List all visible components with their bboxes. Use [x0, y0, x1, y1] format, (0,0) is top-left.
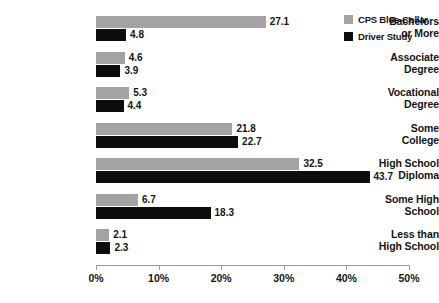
x-axis-tick — [346, 265, 347, 270]
legend-item-label: CPS Blue-Collar — [358, 14, 428, 25]
x-axis-tick-label: 0% — [76, 272, 116, 284]
bar-value-label: 27.1 — [270, 16, 289, 28]
legend-swatch-icon — [344, 32, 353, 41]
legend-item: CPS Blue-Collar — [344, 14, 428, 25]
bar — [96, 194, 138, 206]
bar-value-label: 2.3 — [114, 242, 128, 254]
bar — [96, 16, 266, 28]
legend-item-label: Driver Study — [358, 31, 412, 42]
x-axis-tick — [221, 265, 222, 270]
bar-value-label: 2.1 — [113, 229, 127, 241]
bar — [96, 171, 370, 183]
bar — [96, 87, 129, 99]
chart-legend: CPS Blue-Collar Driver Study — [344, 14, 428, 48]
x-axis-line — [96, 265, 409, 266]
bar-value-label: 4.8 — [130, 29, 144, 41]
bar-value-label: 6.7 — [142, 194, 156, 206]
legend-swatch-icon — [344, 15, 353, 24]
bar — [96, 242, 110, 254]
x-axis-tick — [284, 265, 285, 270]
bar-value-label: 21.8 — [236, 123, 255, 135]
x-axis-tick-label: 10% — [139, 272, 179, 284]
bar-value-label: 4.6 — [129, 52, 143, 64]
bar — [96, 207, 211, 219]
x-axis-tick-label: 40% — [326, 272, 366, 284]
bar — [96, 100, 124, 112]
bar — [96, 136, 238, 148]
bar-chart: Bachelorsor MoreAssociateDegreeVocationa… — [0, 0, 439, 303]
bar-value-label: 18.3 — [215, 207, 234, 219]
x-axis-tick — [409, 265, 410, 270]
bar-value-label: 43.7 — [374, 171, 393, 183]
bar — [96, 65, 120, 77]
bar-value-label: 22.7 — [242, 136, 261, 148]
legend-item: Driver Study — [344, 31, 428, 42]
bar — [96, 229, 109, 241]
bar-value-label: 32.5 — [303, 158, 322, 170]
x-axis-tick-label: 50% — [389, 272, 429, 284]
bar-value-label: 3.9 — [124, 65, 138, 77]
bar — [96, 29, 126, 41]
bar — [96, 123, 232, 135]
bar — [96, 158, 299, 170]
x-axis-tick — [96, 265, 97, 270]
bar — [96, 52, 125, 64]
bar-value-label: 4.4 — [128, 100, 142, 112]
bar-value-label: 5.3 — [133, 87, 147, 99]
x-axis-tick — [159, 265, 160, 270]
x-axis-tick-label: 30% — [264, 272, 304, 284]
x-axis-tick-label: 20% — [201, 272, 241, 284]
